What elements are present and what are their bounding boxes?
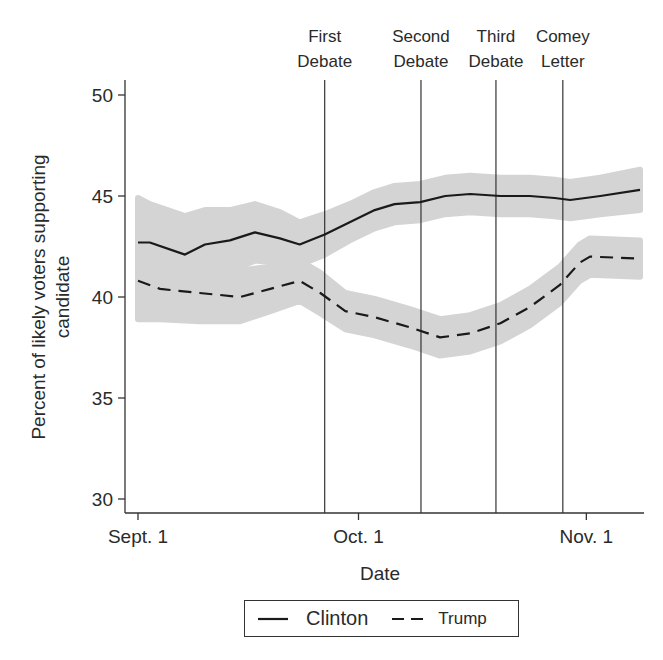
event-label-line2: Debate — [394, 52, 449, 71]
legend-label-trump: Trump — [438, 609, 487, 629]
legend-item-clinton: Clinton — [258, 607, 368, 630]
x-tick-label: Nov. 1 — [560, 526, 614, 547]
event-labels: FirstDebateSecondDebateThirdDebateComeyL… — [297, 27, 590, 71]
chart-figure: 3035404550Sept. 1Oct. 1Nov. 1 FirstDebat… — [0, 0, 663, 660]
y-tick-label: 30 — [92, 489, 113, 510]
dashed-line-icon — [392, 614, 428, 624]
y-axis-title: Percent of likely voters supporting cand… — [28, 154, 73, 439]
y-tick-label: 45 — [92, 186, 113, 207]
x-axis-title: Date — [360, 563, 400, 584]
y-tick-label: 50 — [92, 85, 113, 106]
solid-line-icon — [258, 614, 290, 624]
y-axis-title-line2: candidate — [52, 256, 73, 338]
y-tick-label: 35 — [92, 388, 113, 409]
confidence-bands — [138, 170, 640, 356]
legend: Clinton Trump — [244, 600, 519, 637]
x-tick-label: Sept. 1 — [108, 526, 168, 547]
event-label-line1: Comey — [536, 27, 590, 46]
event-label-line1: First — [308, 27, 341, 46]
event-label-line2: Letter — [541, 52, 585, 71]
legend-label-clinton: Clinton — [306, 607, 368, 630]
event-label-line1: Third — [477, 27, 516, 46]
x-tick-label: Oct. 1 — [333, 526, 384, 547]
event-label-line1: Second — [392, 27, 450, 46]
event-label-line2: Debate — [297, 52, 352, 71]
y-tick-label: 40 — [92, 287, 113, 308]
legend-item-trump: Trump — [392, 609, 487, 629]
y-axis-title-line1: Percent of likely voters supporting — [28, 154, 49, 439]
event-label-line2: Debate — [469, 52, 524, 71]
